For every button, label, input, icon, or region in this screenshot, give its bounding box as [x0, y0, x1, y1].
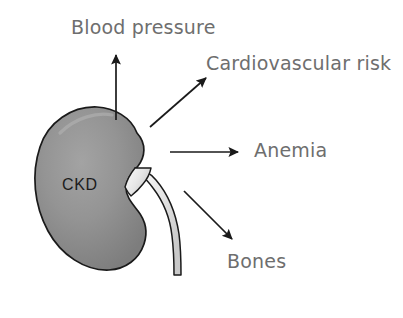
kidney-diagram-graphic	[0, 0, 403, 318]
kidney-label-ckd: CKD	[62, 176, 98, 194]
arrow-up-right	[150, 78, 206, 127]
arrow-down-right	[184, 191, 232, 239]
outcome-label-anemia: Anemia	[254, 139, 327, 161]
outcome-label-blood-pressure: Blood pressure	[71, 16, 216, 38]
diagram-canvas: Blood pressure Cardiovascular risk Anemi…	[0, 0, 403, 318]
outcome-label-cardiovascular-risk: Cardiovascular risk	[206, 52, 391, 74]
outcome-label-bones: Bones	[227, 250, 286, 272]
